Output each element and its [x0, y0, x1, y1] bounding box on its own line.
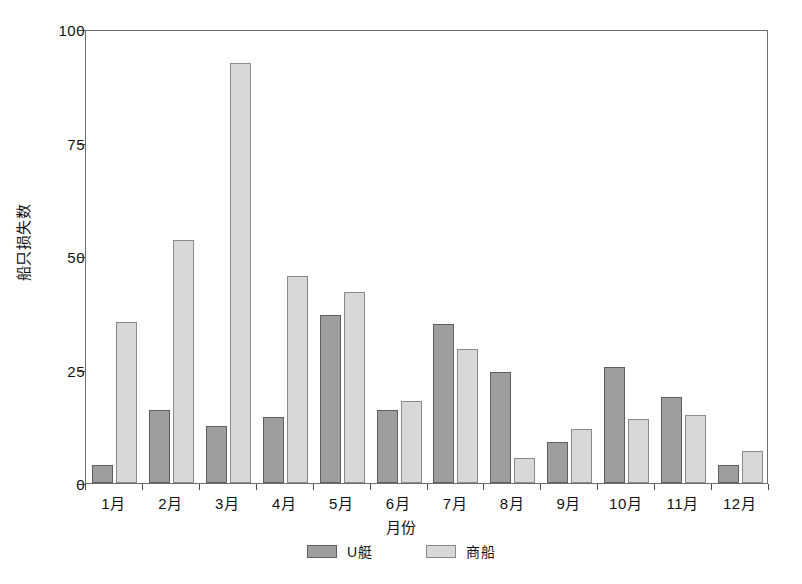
bar-merchant: [401, 401, 422, 483]
x-tick-mark: [85, 484, 86, 490]
bar-chart: 船只损失数 0255075100 月份 U艇 商船 1月2月3月4月5月6月7月…: [0, 0, 802, 584]
bar-merchant: [457, 349, 478, 483]
x-tick-mark: [597, 484, 598, 490]
legend-swatch-uboat-icon: [307, 545, 337, 558]
bar-merchant: [230, 63, 251, 483]
x-tick-mark: [142, 484, 143, 490]
bar-uboat: [149, 410, 170, 483]
y-tick-mark: [78, 144, 85, 145]
legend-swatch-merchant-icon: [426, 545, 456, 558]
x-tick-mark: [768, 484, 769, 490]
x-tick-mark: [540, 484, 541, 490]
bar-merchant: [344, 292, 365, 483]
bar-merchant: [685, 415, 706, 483]
legend-label-merchant: 商船: [466, 541, 495, 561]
bar-merchant: [173, 240, 194, 483]
bar-merchant: [628, 419, 649, 483]
x-tick-mark: [427, 484, 428, 490]
plot-area: [85, 30, 768, 484]
legend-label-uboat: U艇: [347, 541, 372, 561]
y-axis-ticks: 0255075100: [40, 0, 85, 584]
bar-uboat: [377, 410, 398, 483]
bar-uboat: [433, 324, 454, 483]
x-tick-label: 12月: [723, 492, 756, 513]
y-tick-mark: [78, 257, 85, 258]
bar-uboat: [92, 465, 113, 483]
x-tick-label: 6月: [386, 492, 410, 513]
x-axis-title: 月份: [0, 516, 802, 537]
x-tick-mark: [313, 484, 314, 490]
y-axis-title-text: 船只损失数: [13, 203, 34, 281]
x-tick-label: 7月: [443, 492, 467, 513]
bar-merchant: [287, 276, 308, 483]
x-tick-label: 1月: [101, 492, 125, 513]
x-tick-label: 9月: [557, 492, 581, 513]
bar-merchant: [742, 451, 763, 483]
x-tick-label: 11月: [667, 492, 699, 513]
bar-uboat: [320, 315, 341, 483]
x-tick-mark: [199, 484, 200, 490]
legend-item-merchant: 商船: [426, 541, 495, 561]
bar-uboat: [206, 426, 227, 483]
bar-merchant: [514, 458, 535, 483]
chart-legend: U艇 商船: [0, 541, 802, 561]
x-tick-label: 3月: [215, 492, 239, 513]
x-tick-mark: [370, 484, 371, 490]
y-tick-mark: [78, 371, 85, 372]
y-tick-mark: [78, 484, 85, 485]
x-tick-label: 2月: [158, 492, 182, 513]
x-tick-label: 8月: [500, 492, 524, 513]
x-tick-label: 4月: [272, 492, 296, 513]
x-tick-label: 10月: [609, 492, 642, 513]
bar-merchant: [116, 322, 137, 483]
x-tick-label: 5月: [329, 492, 353, 513]
x-tick-mark: [711, 484, 712, 490]
bars-layer: [86, 31, 767, 483]
bar-uboat: [661, 397, 682, 483]
x-tick-mark: [654, 484, 655, 490]
bar-uboat: [604, 367, 625, 483]
x-tick-mark: [483, 484, 484, 490]
y-tick-mark: [78, 30, 85, 31]
bar-uboat: [718, 465, 739, 483]
legend-item-uboat: U艇: [307, 541, 372, 561]
bar-uboat: [490, 372, 511, 483]
x-tick-mark: [256, 484, 257, 490]
bar-merchant: [571, 429, 592, 483]
bar-uboat: [263, 417, 284, 483]
bar-uboat: [547, 442, 568, 483]
